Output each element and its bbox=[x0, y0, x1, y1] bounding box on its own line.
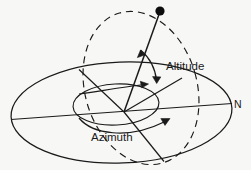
diagram-canvas: Altitude Azimuth N bbox=[0, 0, 251, 170]
north-label: N bbox=[234, 98, 242, 110]
azimuth-label: Azimuth bbox=[91, 131, 133, 143]
altitude-label: Altitude bbox=[166, 60, 204, 72]
diagram-background bbox=[0, 0, 251, 170]
celestial-object-dot bbox=[155, 6, 164, 15]
horizontal-coordinate-diagram: Altitude Azimuth N bbox=[0, 0, 251, 170]
